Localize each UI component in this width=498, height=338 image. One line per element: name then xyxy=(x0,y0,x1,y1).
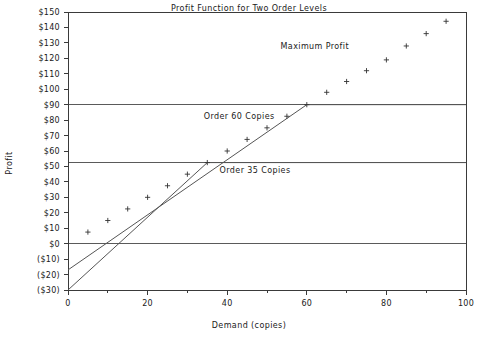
x-tick-label: 40 xyxy=(222,299,233,308)
data-point-marker xyxy=(185,172,190,177)
x-axis-title: Demand (copies) xyxy=(212,321,286,330)
x-tick-label: 100 xyxy=(458,299,474,308)
data-point-marker xyxy=(125,206,130,211)
data-point-marker xyxy=(364,68,369,73)
data-point-marker xyxy=(245,137,250,142)
x-tick-label: 60 xyxy=(301,299,312,308)
annotation-order-35-copies: Order 35 Copies xyxy=(220,166,291,175)
annotation-order-60-copies: Order 60 Copies xyxy=(204,112,275,121)
x-axis-ticks-group: 020406080100 xyxy=(65,290,474,308)
y-tick-label: $10 xyxy=(44,224,60,233)
x-axis-title-group: Demand (copies) xyxy=(212,321,286,330)
y-tick-label: $100 xyxy=(38,85,60,94)
plot-frame xyxy=(68,12,466,290)
data-point-marker xyxy=(225,148,230,153)
x-tick-label: 20 xyxy=(142,299,153,308)
data-point-marker xyxy=(344,79,349,84)
series-markers-group xyxy=(85,19,448,235)
y-tick-label: $30 xyxy=(44,193,60,202)
data-point-marker xyxy=(85,229,90,234)
series-line-order-35-copies xyxy=(68,163,466,290)
y-tick-label: $90 xyxy=(44,101,60,110)
data-point-marker xyxy=(105,218,110,223)
y-tick-label: $110 xyxy=(38,70,60,79)
x-tick-label: 0 xyxy=(65,299,70,308)
y-tick-label: ($10) xyxy=(37,255,60,264)
y-tick-label: $140 xyxy=(38,23,60,32)
data-point-marker xyxy=(284,114,289,119)
y-tick-label: $20 xyxy=(44,209,60,218)
y-tick-label: $60 xyxy=(44,147,60,156)
annotation-maximum-profit: Maximum Profit xyxy=(281,42,349,51)
data-point-marker xyxy=(324,90,329,95)
y-axis-title-group: Profit xyxy=(5,151,14,174)
data-point-marker xyxy=(165,183,170,188)
annotations-group: Order 35 CopiesOrder 60 CopiesMaximum Pr… xyxy=(204,42,349,175)
y-tick-label: $80 xyxy=(44,116,60,125)
series-lines-group xyxy=(68,105,466,290)
y-tick-label: ($30) xyxy=(37,286,60,295)
y-tick-label: $70 xyxy=(44,132,60,141)
y-tick-label: $150 xyxy=(38,8,60,17)
x-tick-label: 80 xyxy=(381,299,392,308)
y-tick-label: $0 xyxy=(49,240,60,249)
y-axis-title: Profit xyxy=(5,151,14,174)
data-point-marker xyxy=(145,195,150,200)
data-point-marker xyxy=(264,125,269,130)
data-point-marker xyxy=(444,19,449,24)
y-tick-label: $50 xyxy=(44,162,60,171)
y-tick-label: $120 xyxy=(38,54,60,63)
y-tick-label: $130 xyxy=(38,39,60,48)
data-point-marker xyxy=(404,43,409,48)
chart-canvas: Profit Function for Two Order Levels ($3… xyxy=(0,0,498,338)
data-point-marker xyxy=(424,31,429,36)
profit-function-chart: Profit Function for Two Order Levels ($3… xyxy=(0,0,498,338)
y-tick-label: ($20) xyxy=(37,271,60,280)
y-axis-ticks-group: ($30)($20)($10)$0$10$20$30$40$50$60$70$8… xyxy=(37,8,68,295)
data-point-marker xyxy=(384,57,389,62)
y-tick-label: $40 xyxy=(44,178,60,187)
